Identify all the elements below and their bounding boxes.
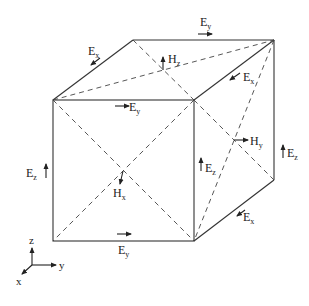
z-axis-label: z: [29, 234, 34, 246]
label-ez-front-right: Ez: [205, 161, 216, 177]
label-ex-top-left: Ex: [88, 44, 99, 60]
label-hz: Hz: [168, 52, 181, 68]
label-hx: Hx: [113, 186, 126, 202]
label-hy: Hy: [250, 134, 263, 150]
x-axis-label: x: [16, 275, 22, 287]
coordinate-axes: z y x: [16, 234, 65, 287]
label-ez-left: Ez: [26, 166, 37, 182]
label-ex-top-right: Ex: [243, 70, 254, 86]
yee-cell-diagram: Ex Ey Hz Ex Ey Ez Hy Ez Ez Hx Ex Ey z y …: [0, 0, 309, 306]
edge-top-right: [194, 40, 274, 100]
label-ez-back-right: Ez: [287, 146, 298, 162]
y-axis-label: y: [59, 259, 65, 271]
label-ey-top-back: Ey: [200, 15, 211, 31]
x-axis-arrow: [22, 265, 32, 274]
label-ex-bottom-right: Ex: [243, 210, 254, 226]
label-ey-top-front: Ey: [129, 100, 140, 116]
ex-top-right-arrow: [230, 73, 240, 80]
field-arrows: [46, 34, 283, 234]
label-ey-bottom: Ey: [118, 243, 129, 259]
